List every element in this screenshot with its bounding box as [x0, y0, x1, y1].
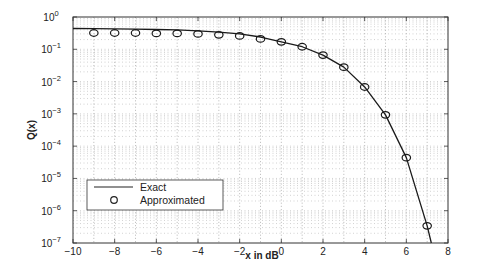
- y-tick-label: 10−2: [41, 74, 61, 88]
- x-axis-label: x in dB: [245, 250, 278, 261]
- x-tick-label: −10: [65, 246, 82, 257]
- x-tick-label: −4: [192, 246, 204, 257]
- legend-label-approximated: Approximated: [140, 194, 205, 206]
- y-tick-label: 10−3: [41, 106, 61, 120]
- x-tick-label: 6: [404, 246, 410, 257]
- chart: −10−8−6−4−202468 10010−110−210−310−410−5…: [0, 0, 478, 277]
- x-tick-label: 0: [279, 246, 285, 257]
- y-tick-label: 10−1: [41, 41, 61, 55]
- x-axis-ticks: −10−8−6−4−202468: [65, 17, 452, 257]
- y-tick-label: 10−6: [41, 203, 61, 217]
- x-tick-label: −2: [234, 246, 246, 257]
- x-tick-label: 8: [445, 246, 451, 257]
- y-axis-label: Q(x): [26, 120, 37, 140]
- y-tick-label: 10−5: [41, 170, 61, 184]
- x-tick-label: 4: [362, 246, 368, 257]
- legend-label-exact: Exact: [140, 181, 166, 193]
- y-axis-ticks: 10010−110−210−310−410−510−610−7: [41, 9, 448, 249]
- x-tick-label: −6: [151, 246, 163, 257]
- x-tick-label: −8: [109, 246, 121, 257]
- y-tick-label: 100: [43, 9, 58, 23]
- x-tick-label: 2: [320, 246, 326, 257]
- legend: Exact Approximated: [87, 180, 223, 210]
- y-tick-label: 10−7: [41, 235, 61, 249]
- y-tick-label: 10−4: [41, 138, 61, 152]
